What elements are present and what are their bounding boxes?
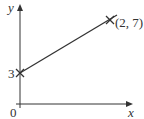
data-line — [20, 15, 117, 73]
y-axis-arrow-icon — [17, 4, 23, 11]
origin-label: 0 — [10, 105, 17, 119]
y-axis-label: y — [6, 0, 14, 15]
x-axis-label: x — [127, 105, 134, 119]
point-label: (2, 7) — [115, 15, 143, 30]
intercept-label: 3 — [8, 66, 15, 81]
cross-marker-point — [106, 16, 114, 24]
line-graph: y x 0 3 (2, 7) — [0, 0, 144, 119]
